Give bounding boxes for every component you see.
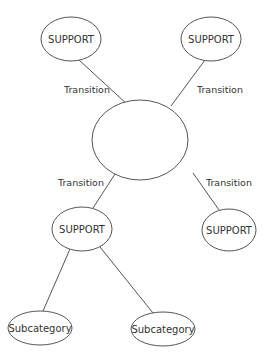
node-subcategory-right: Subcategory — [131, 312, 195, 346]
edge-support_mid_left-to-subcategory_left — [43, 249, 70, 311]
node-support-mid-left: SUPPORT — [52, 207, 112, 251]
edge-label: Transition — [57, 177, 104, 188]
edge-support_mid_left-to-subcategory_right — [100, 247, 153, 313]
diagram-canvas: SUPPORTSUPPORTSUPPORTSUPPORTSubcategoryS… — [0, 0, 266, 360]
node-label: SUPPORT — [188, 34, 235, 45]
concept-map-diagram: SUPPORTSUPPORTSUPPORTSUPPORTSubcategoryS… — [0, 0, 266, 360]
node-label: SUPPORT — [48, 34, 95, 45]
edge-label: Transition — [205, 177, 252, 188]
node-support-mid-right: SUPPORT — [202, 209, 256, 251]
edge-label: Transition — [196, 84, 243, 95]
node-label: Subcategory — [131, 324, 194, 335]
node-label: SUPPORT — [206, 225, 253, 236]
node-support-top-left: SUPPORT — [41, 17, 101, 61]
edge-label: Transition — [63, 84, 110, 95]
node-support-top-right: SUPPORT — [181, 17, 241, 61]
edge-support_top_left-to-center — [79, 60, 128, 105]
node-label: SUPPORT — [59, 224, 106, 235]
node-label: Subcategory — [8, 323, 71, 334]
node-center — [92, 100, 188, 180]
node-subcategory-left: Subcategory — [8, 311, 72, 345]
edge-support_top_right-to-center — [171, 60, 205, 106]
node-ellipse — [92, 100, 188, 180]
